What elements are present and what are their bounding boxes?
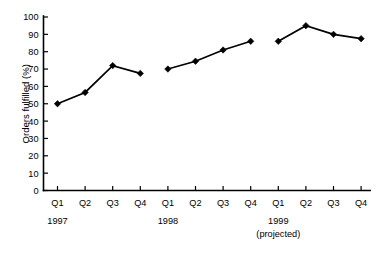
x-tick-label: Q3 [217,198,229,208]
x-tick-label: Q2 [79,198,91,208]
y-tick-label: 0 [33,186,38,196]
data-point-marker [358,35,364,41]
data-point-marker [165,66,171,72]
x-group-label: 1998 [158,216,178,226]
y-tick-label: 80 [28,47,38,57]
y-tick-label: 30 [28,134,38,144]
data-point-marker [330,31,336,37]
data-point-marker [248,38,254,44]
y-tick-label: 90 [28,30,38,40]
x-tick-label: Q1 [162,198,174,208]
x-tick-label: Q2 [300,198,312,208]
x-tick-label: Q4 [245,198,257,208]
y-tick-label: 100 [23,12,38,22]
chart-container: Orders fulfilled (%) 0102030405060708090… [0,0,390,264]
x-group-label: 1997 [47,216,67,226]
x-tick-label: Q4 [134,198,146,208]
x-tick-label: Q4 [355,198,367,208]
data-series-group [54,22,364,106]
x-tick-label: Q3 [327,198,339,208]
y-tick-label: 10 [28,169,38,179]
x-tick-label: Q3 [107,198,119,208]
data-point-marker [54,101,60,107]
data-point-marker [220,47,226,53]
data-point-marker [192,58,198,64]
y-tick-label: 70 [28,64,38,74]
x-tick-label: Q1 [51,198,63,208]
x-group-sublabel: (projected) [256,229,300,239]
x-tick-label: Q2 [189,198,201,208]
series-line-1999-projected- [278,26,361,42]
y-tick-label: 20 [28,151,38,161]
y-tick-label: 40 [28,117,38,127]
y-tick-label: 60 [28,82,38,92]
y-tick-label: 50 [28,99,38,109]
data-point-marker [137,70,143,76]
series-line-1998 [168,41,251,69]
series-line-1997 [58,66,141,104]
x-group-label: 1999 [268,216,288,226]
x-axis-group-labels: 199719981999(projected) [47,216,300,239]
x-tick-label: Q1 [272,198,284,208]
orders-fulfilled-line-chart: Orders fulfilled (%) 0102030405060708090… [0,0,390,264]
chart-axes [44,16,371,191]
x-axis-tick-labels: Q1Q2Q3Q4Q1Q2Q3Q4Q1Q2Q3Q4 [51,198,367,208]
